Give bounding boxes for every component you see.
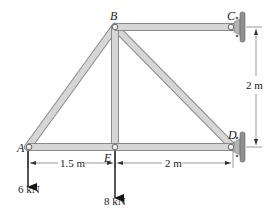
label-D: D <box>227 128 237 142</box>
pin-E <box>112 144 118 150</box>
dimension-ED: 2 m <box>165 157 182 169</box>
pin-A <box>26 144 32 150</box>
pin-B <box>112 24 118 30</box>
dimension-AE: 1.5 m <box>60 157 86 169</box>
load-label-A: 6 kN <box>18 183 40 195</box>
pin-D <box>228 144 234 150</box>
label-C: C <box>227 9 236 23</box>
support-C <box>234 12 245 42</box>
load-A: 6 kN <box>18 151 40 195</box>
label-B: B <box>110 9 118 23</box>
dimension-vertical: 2 m <box>246 27 263 147</box>
dimension-horizontal: 1.5 m 2 m <box>28 151 233 169</box>
label-A: A <box>16 141 25 155</box>
load-label-E: 8 kN <box>104 195 126 207</box>
members <box>28 27 235 147</box>
pin-C <box>228 24 234 30</box>
truss-diagram: A B C D E 2 m 1.5 m 2 m 6 kN 8 kN <box>0 0 277 217</box>
dimension-CD: 2 m <box>246 79 263 91</box>
